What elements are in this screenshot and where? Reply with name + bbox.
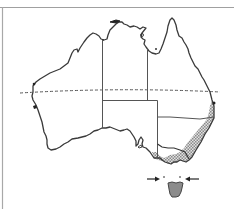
border-qld-nsw	[158, 117, 215, 119]
east-coast-marker	[213, 102, 216, 105]
tasmania	[168, 182, 183, 197]
arrow-east-icon	[147, 177, 160, 182]
kangaroo-island	[138, 145, 142, 148]
bass-strait-marker-east	[179, 176, 181, 178]
tropic-of-capricorn-line	[20, 90, 220, 93]
australia-map-figure	[0, 0, 234, 209]
shaded-region-southeast	[152, 100, 214, 164]
west-coast-marker-north	[33, 83, 36, 86]
arrow-west-icon	[185, 177, 199, 182]
bass-strait-marker-west	[163, 176, 165, 178]
map-svg	[0, 0, 234, 209]
gulf-marker	[155, 48, 157, 50]
